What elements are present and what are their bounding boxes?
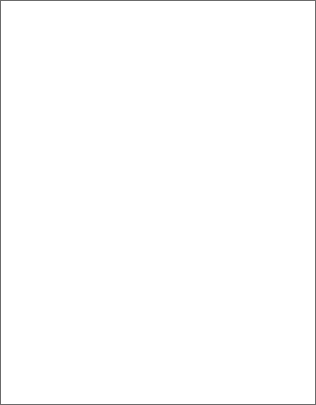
- lower-field-group: [0, 0, 316, 405]
- lower-field-background: [0, 0, 316, 405]
- outer-border: [1, 1, 316, 405]
- pattern-canvas: [0, 0, 316, 405]
- lower-grid-lines: [0, 0, 316, 405]
- quilt-pattern-svg: [0, 0, 316, 405]
- upper-field-group: [0, 0, 316, 405]
- upper-field-background: [0, 0, 316, 405]
- upper-grid-lines: [0, 0, 316, 405]
